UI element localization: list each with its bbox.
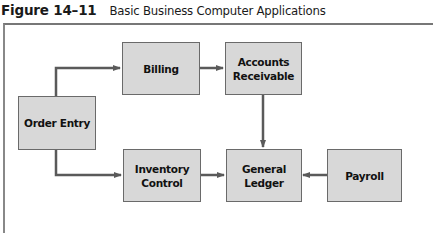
- node-accounts-receivable: Accounts Receivable: [225, 42, 302, 95]
- node-label: General Ledger: [242, 162, 286, 190]
- node-label: Accounts Receivable: [233, 55, 294, 83]
- node-billing: Billing: [122, 42, 200, 95]
- node-general-ledger: General Ledger: [226, 149, 302, 202]
- node-order-entry: Order Entry: [18, 96, 96, 150]
- node-label: Order Entry: [24, 116, 90, 130]
- node-label: Payroll: [345, 169, 384, 183]
- node-label: Inventory Control: [135, 162, 189, 190]
- arrow-order-entry-to-billing: [56, 68, 120, 96]
- node-payroll: Payroll: [327, 149, 402, 202]
- node-inventory-control: Inventory Control: [123, 149, 201, 202]
- arrow-order-entry-to-inventory: [56, 150, 121, 175]
- node-label: Billing: [143, 62, 178, 76]
